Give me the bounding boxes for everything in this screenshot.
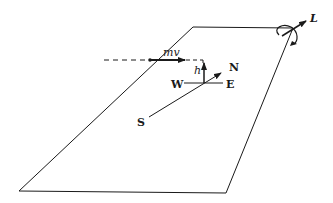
east-label: E [226, 78, 234, 91]
diagram-canvas: mv h W E N S L [0, 0, 333, 203]
angular-momentum-label: L [309, 12, 318, 25]
south-label: S [137, 116, 145, 129]
tilted-plane [19, 27, 293, 193]
height-label: h [194, 64, 201, 77]
west-label: W [170, 78, 184, 91]
north-label: N [229, 61, 239, 74]
south-north-axis [149, 73, 221, 117]
angular-momentum-arrow [282, 21, 306, 36]
momentum-label: mv [163, 46, 180, 59]
